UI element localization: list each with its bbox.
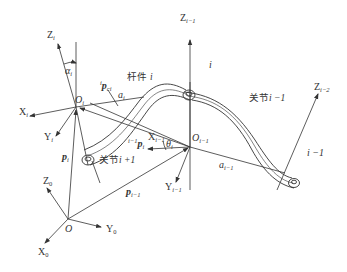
label-z-im1: Zi−1: [180, 13, 196, 25]
label-p-im1: pi−1: [126, 187, 140, 199]
xi-axis: [30, 107, 76, 116]
label-z0: Z0: [43, 176, 52, 188]
joint-i-cap: [183, 90, 195, 100]
label-o-im1: Oi−1: [192, 133, 209, 145]
label-x-i: Xi: [19, 107, 28, 119]
label-p-i: pi: [62, 152, 69, 164]
label-o-i: Oi: [75, 95, 84, 107]
label-a-i: ai: [118, 90, 125, 102]
label-link-i: 杆件 i: [127, 72, 153, 83]
zim2-axis: [277, 94, 318, 190]
link-i-axis-line: [76, 107, 88, 165]
label-alpha-i: αi: [65, 66, 72, 78]
joint-ip1-pin: [85, 157, 91, 161]
label-joint-ip1: 关节i +1: [99, 155, 135, 166]
robot-link-coordinate-diagram: Zi αi ipci 杆件 i Oi ai Xi Yi Xi−1 i−1pi θ…: [0, 0, 347, 272]
p-i-vector: [68, 110, 76, 219]
label-y0: Y0: [106, 224, 116, 236]
label-theta-i: θi: [166, 139, 173, 151]
y0-axis: [68, 219, 101, 227]
label-zi: Zi: [47, 30, 55, 42]
z0-axis: [47, 188, 68, 219]
label-im1-right: i −1: [307, 148, 324, 158]
label-a-im1: ai−1: [219, 160, 233, 172]
ai-line: [76, 97, 144, 107]
joint-im1-pin: [292, 180, 297, 184]
label-i-top: i: [209, 60, 212, 70]
label-o: O: [65, 224, 72, 234]
label-y-i: Yi: [44, 132, 53, 144]
label-y-im1: Yi−1: [165, 182, 182, 194]
label-joint-im1: 关节i −1: [249, 93, 285, 104]
label-x0: X0: [38, 247, 48, 259]
label-im1-p-i: i−1pi: [128, 138, 144, 151]
yi-axis: [56, 107, 76, 136]
yim1-axis: [176, 147, 190, 182]
label-z-im2: Zi−2: [314, 82, 330, 94]
label-x-im1: Xi−1: [148, 132, 165, 144]
alpha-i-arc: [64, 62, 76, 64]
label-i-p-ci: ipci: [100, 80, 112, 93]
